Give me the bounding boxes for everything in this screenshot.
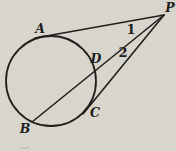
tangent-line-PA xyxy=(35,15,164,38)
label-angle-2: 2 xyxy=(118,45,127,60)
label-D: D xyxy=(90,51,102,66)
label-C: C xyxy=(90,105,100,120)
label-A: A xyxy=(34,21,45,36)
label-B: B xyxy=(19,121,31,136)
label-P: P xyxy=(164,0,175,15)
label-angle-1: 1 xyxy=(126,22,135,37)
scan-smudge xyxy=(20,147,29,149)
figure-svg: PABCD12 xyxy=(0,0,176,151)
geometry-figure: PABCD12 xyxy=(0,0,176,151)
